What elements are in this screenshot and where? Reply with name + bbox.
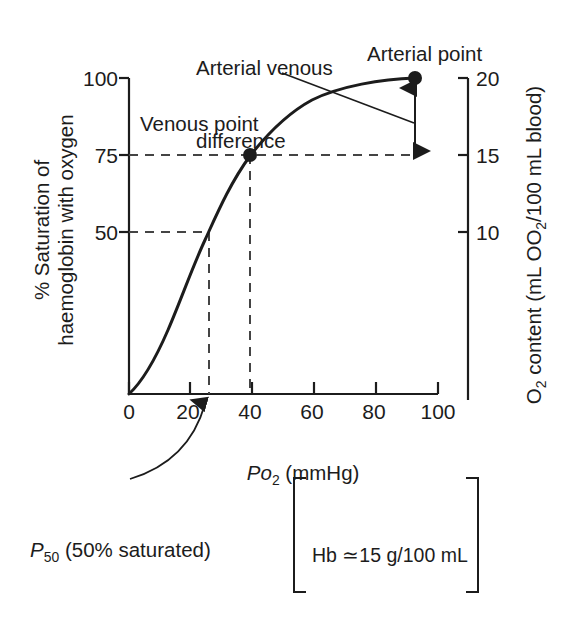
right-axis-title-mid: content (mL O	[522, 246, 545, 381]
p50-descriptor: (50% saturated)	[65, 538, 211, 561]
conditions-line-hb: Hb ≃15 g/100 mL	[312, 541, 468, 569]
x-axis-title-p: P	[247, 461, 261, 484]
x-tick-label-40: 40	[230, 400, 270, 425]
p50-symbol: P	[30, 538, 44, 561]
conditions-box: Hb ≃15 g/100 mL pH 7.4 Pco2 40 mmHg T 37…	[312, 484, 468, 617]
arterial-point-marker	[408, 71, 422, 85]
x-axis-title-rest: (mmHg)	[280, 461, 360, 484]
x-tick-label-100: 100	[413, 400, 463, 425]
x-tick-label-80: 80	[354, 400, 394, 425]
x-axis-title-o: o	[260, 461, 271, 484]
y-right-tick-label-10: 10	[476, 221, 499, 246]
annotation-venous-point: Venous point	[140, 112, 259, 136]
right-axis-title-sub-2: 2	[533, 222, 549, 230]
conditions-bracket-right	[466, 478, 478, 592]
y-right-tick-label-15: 15	[476, 144, 499, 169]
p50-caption-line-1: P50 (50% saturated)	[30, 538, 211, 566]
left-axis-title-line-1: % Saturation of	[30, 85, 54, 375]
avd-line-1: Arterial venous	[196, 56, 333, 80]
left-axis-title-line-2: haemoglobin with oxygen	[54, 85, 78, 375]
oxygen-dissociation-chart: Arterial venous difference Arterial poin…	[0, 0, 562, 617]
p50-caption: P50 (50% saturated) = 26 mmHg	[30, 490, 211, 617]
right-axis-title-suffix: /100 mL blood)	[522, 86, 545, 222]
conditions-approx-icon: ≃	[342, 544, 359, 566]
annotation-arterial-point: Arterial point	[367, 42, 482, 66]
right-axis-title: O2 content (mL OO2/100 mL blood)	[522, 70, 550, 420]
right-axis-title-sub-1: 2	[533, 380, 549, 388]
y-right-tick-label-20: 20	[476, 67, 499, 92]
x-tick-label-60: 60	[292, 400, 332, 425]
p50-subscript: 50	[44, 549, 60, 565]
conditions-hb-value: 15 g/100 mL	[359, 544, 467, 566]
right-axis-title-o: O	[522, 388, 545, 404]
x-tick-label-0: 0	[109, 400, 149, 425]
x-tick-label-20: 20	[168, 400, 208, 425]
right-axis-title-o2: O	[522, 230, 545, 246]
conditions-hb-label: Hb	[312, 544, 337, 566]
x-axis-title-sub: 2	[272, 472, 280, 488]
annotation-arterial-venous-difference: Arterial venous difference	[196, 8, 333, 202]
